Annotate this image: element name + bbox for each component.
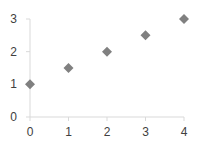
y-tick-label: 3 (10, 12, 17, 26)
x-tick-label: 2 (104, 125, 111, 139)
data-point (102, 47, 112, 57)
data-point (64, 63, 74, 73)
x-tick-label: 4 (181, 125, 188, 139)
y-tick-label: 0 (10, 110, 17, 124)
x-tick-label: 0 (27, 125, 34, 139)
x-tick-label: 3 (142, 125, 149, 139)
data-point (179, 14, 189, 24)
x-tick-label: 1 (65, 125, 72, 139)
scatter-chart: 01234 0123 (0, 0, 198, 151)
y-tick-label: 2 (10, 45, 17, 59)
y-tick-label: 1 (10, 77, 17, 91)
data-point (25, 79, 35, 89)
data-point (141, 30, 151, 40)
